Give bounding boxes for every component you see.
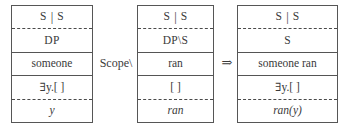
derivation-diagram: S|S DP someone ∃y.[ ] y Scope\ S|S DP\S … [0, 0, 346, 128]
box3-term-label: ran(y) [273, 105, 302, 117]
box1-word-label: someone [32, 58, 73, 70]
box1-category-top-right: S [57, 11, 64, 23]
box3-row-word: someone ran [238, 52, 337, 75]
box3-row-category: S [238, 28, 337, 51]
box1-category-label: DP [44, 35, 59, 47]
box2-row-category: DP\S [138, 28, 213, 51]
scope-operator-connector: Scope\ [96, 50, 136, 76]
derivation-box-ran: S|S DP\S ran [ ] ran [137, 5, 214, 123]
box3-word-label: someone ran [258, 58, 316, 70]
box1-row-category-top: S|S [12, 6, 92, 28]
box2-category-top-left: S [164, 11, 171, 23]
box2-logic-label: [ ] [170, 82, 181, 94]
box1-category-top-left: S [40, 11, 47, 23]
box1-row-word: someone [12, 52, 92, 75]
box3-category-top-separator: | [282, 11, 293, 24]
box3-row-term: ran(y) [238, 99, 337, 122]
box1-row-term: y [12, 99, 92, 122]
box3-row-category-top: S|S [238, 6, 337, 28]
box1-logic-label: ∃y.[ ] [40, 82, 65, 94]
box3-category-top-left: S [276, 11, 283, 23]
box2-category-top-separator: | [170, 11, 181, 24]
box3-row-logic: ∃y.[ ] [238, 75, 337, 98]
box2-row-logic: [ ] [138, 75, 213, 98]
box2-word-label: ran [168, 58, 183, 70]
box1-row-logic: ∃y.[ ] [12, 75, 92, 98]
box1-category-top-separator: | [47, 11, 58, 24]
box1-row-category: DP [12, 28, 92, 51]
box2-row-term: ran [138, 99, 213, 122]
box3-category-label: S [284, 35, 291, 47]
box1-term-label: y [49, 105, 54, 117]
box3-logic-label: ∃y.[ ] [275, 82, 300, 94]
derivation-box-someone: S|S DP someone ∃y.[ ] y [11, 5, 93, 123]
derivation-box-someone-ran: S|S S someone ran ∃y.[ ] ran(y) [237, 5, 338, 123]
box2-category-label: DP\S [163, 35, 189, 47]
box2-row-word: ran [138, 52, 213, 75]
implies-arrow-icon: ⇒ [222, 55, 233, 71]
box2-row-category-top: S|S [138, 6, 213, 28]
scope-operator-label: Scope\ [100, 56, 133, 71]
box2-category-top-right: S [181, 11, 188, 23]
box2-term-label: ran [168, 105, 184, 117]
box3-category-top-right: S [293, 11, 300, 23]
implies-arrow-connector: ⇒ [216, 50, 238, 76]
